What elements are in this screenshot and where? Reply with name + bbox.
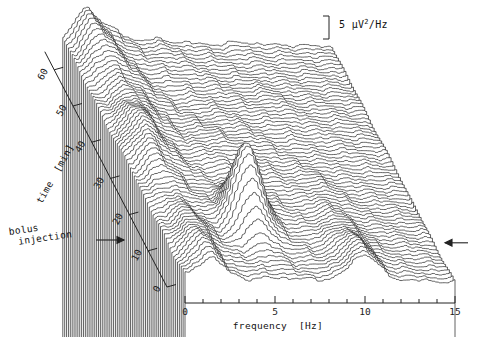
y-axis-tick-label: 60 <box>35 66 50 82</box>
x-axis-tick-label: 10 <box>359 306 371 317</box>
z-scalebar <box>323 16 329 39</box>
x-axis-tick-label: 5 <box>272 306 278 317</box>
z-scalebar-label: 5 μV2/Hz <box>339 18 388 30</box>
x-axis-tick-label: 0 <box>182 306 188 317</box>
waterfall-plot: 0510150102030405060 <box>0 0 477 337</box>
x-axis-label: frequency [Hz] <box>233 320 323 331</box>
figure-canvas: 0510150102030405060 frequency [Hz] time … <box>0 0 477 337</box>
x-axis-tick-label: 15 <box>449 306 460 317</box>
right-marker-arrow <box>445 239 468 246</box>
scalebar-unit-tail: /Hz <box>369 19 388 30</box>
scalebar-value: 5 μV <box>339 19 364 30</box>
